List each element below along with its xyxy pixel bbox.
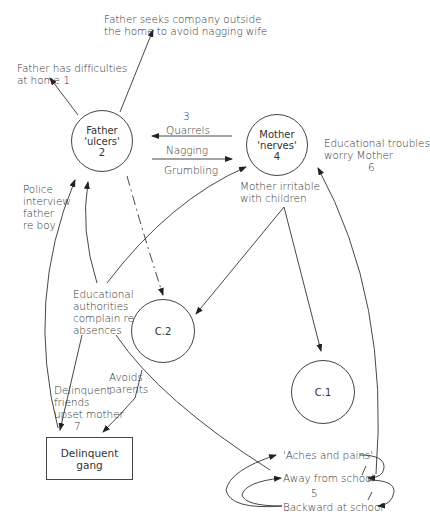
label-away-from-school: Away from school xyxy=(283,472,374,484)
text-line: father xyxy=(23,207,71,219)
node-mother: Mother 'nerves' 4 xyxy=(246,114,308,176)
label-number-3: 3 xyxy=(183,110,190,122)
c2-label: C.2 xyxy=(155,326,172,337)
text-line: interview xyxy=(23,195,71,207)
arrow-mother-to-c2 xyxy=(196,207,284,314)
text-line: re boy xyxy=(23,219,71,231)
text-line: absences xyxy=(73,324,134,336)
node-c2: C.2 xyxy=(131,299,195,363)
arrow-father-to-c2 xyxy=(127,176,163,295)
text-line: friends xyxy=(54,396,124,408)
label-quarrels: Quarrels xyxy=(166,124,210,136)
text-line: worry Mother xyxy=(324,149,430,161)
text-line: Avoids xyxy=(109,371,148,383)
label-aches-and-pains: 'Aches and pains' xyxy=(283,449,373,461)
gang-label-2: gang xyxy=(76,459,102,471)
father-label-2: 'ulcers' xyxy=(84,136,120,147)
tick-away xyxy=(368,492,372,500)
text-line: Educational xyxy=(73,288,134,300)
line-edu-to-away xyxy=(116,335,270,470)
label-educational-troubles: Educational troubles worry Mother 6 xyxy=(324,137,430,173)
text-number: 6 xyxy=(324,161,430,173)
arrow-aches-to-mother xyxy=(318,168,378,474)
text-line: complain re xyxy=(73,312,134,324)
node-c1: C.1 xyxy=(291,360,355,424)
label-delinquent-friends: Delinquent friends upset mother 7 xyxy=(54,384,124,432)
label-mother-irritable: Mother irritable with children xyxy=(240,180,320,204)
text-line: Police xyxy=(23,183,71,195)
label-grumbling: Grumbling xyxy=(164,164,218,176)
text-line: Father seeks company outside xyxy=(104,13,267,25)
arrow-backward-to-aches xyxy=(226,455,282,507)
label-backward-at-school: Backward at school xyxy=(283,501,383,513)
label-number-5: 5 xyxy=(311,487,318,499)
father-label-1: Father xyxy=(86,125,117,136)
arrow-edu-to-father xyxy=(85,182,97,283)
arrow-backward-to-away xyxy=(242,478,282,506)
text-line: with children xyxy=(240,192,320,204)
text-line: the home to avoid nagging wife xyxy=(104,25,267,37)
c1-label: C.1 xyxy=(315,387,332,398)
text-line: Delinquent xyxy=(54,384,124,396)
label-edu-authorities: Educational authorities complain re abse… xyxy=(73,288,134,336)
arrow-mother-to-c1 xyxy=(284,207,321,351)
label-father-difficulties: Father has difficulties at home 1 xyxy=(17,62,127,86)
text-line: Educational troubles xyxy=(324,137,430,149)
text-line: authorities xyxy=(73,300,134,312)
text-line: Mother irritable xyxy=(240,180,320,192)
arrow-edu-to-mother xyxy=(107,167,246,283)
label-father-seeks: Father seeks company outside the home to… xyxy=(104,13,267,37)
node-father: Father 'ulcers' 2 xyxy=(71,110,133,172)
label-police-interview: Police interview father re boy xyxy=(23,183,71,231)
mother-label-1: Mother xyxy=(259,129,294,140)
mother-number: 4 xyxy=(274,151,280,162)
mother-label-2: 'nerves' xyxy=(257,140,296,151)
gang-label-1: Delinquent xyxy=(61,447,119,459)
text-line: Father has difficulties xyxy=(17,62,127,74)
node-delinquent-gang: Delinquent gang xyxy=(46,437,133,480)
label-nagging: Nagging xyxy=(166,144,208,156)
father-number: 2 xyxy=(99,147,105,158)
text-line: at home 1 xyxy=(17,74,127,86)
text-line: upset mother xyxy=(54,408,124,420)
text-number: 7 xyxy=(54,420,124,432)
